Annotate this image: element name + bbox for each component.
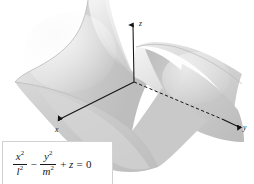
term1-denominator: l2 xyxy=(15,166,26,178)
term1-denominator-exp: 2 xyxy=(20,164,24,171)
equation-operator-minus: − xyxy=(31,158,37,170)
equation-equals-sign: = xyxy=(77,158,83,170)
equation-operator-plus: + xyxy=(60,158,66,170)
equation-box: x2 l2 − y2 m2 + z = 0 xyxy=(2,141,113,184)
equation-term-1: x2 l2 xyxy=(13,151,27,177)
z-axis-label: z xyxy=(138,19,142,28)
term2-denominator: m2 xyxy=(40,166,56,178)
x-axis-label: x xyxy=(54,125,59,134)
term1-numerator: x2 xyxy=(14,151,27,163)
surface-specular-highlight-right xyxy=(162,52,230,104)
term2-denominator-exp: 2 xyxy=(51,164,55,171)
y-axis-label: y xyxy=(242,123,247,132)
term2-numerator-exp: 2 xyxy=(49,149,53,156)
equation-term-2: y2 m2 xyxy=(40,151,56,177)
figure-hyperbolic-paraboloid: z x y x2 l2 − y2 m2 + z = 0 xyxy=(0,0,254,184)
equation-term-3: z xyxy=(69,158,73,170)
term1-numerator-exp: 2 xyxy=(21,149,25,156)
equation-result: 0 xyxy=(86,158,92,170)
surface-specular-highlight xyxy=(24,12,116,92)
term2-numerator: y2 xyxy=(42,151,55,163)
term2-denominator-var: m xyxy=(42,165,50,177)
surface-equation: x2 l2 − y2 m2 + z = 0 xyxy=(12,151,92,177)
